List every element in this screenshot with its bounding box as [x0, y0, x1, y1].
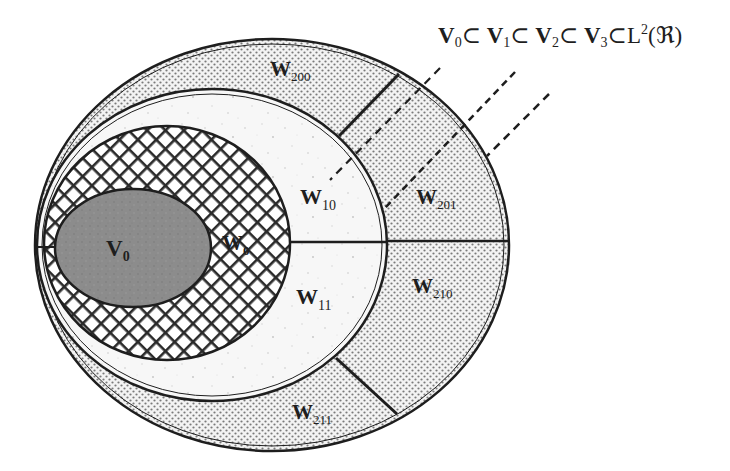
formula-v0-sub: 0: [455, 35, 462, 50]
region-v0: [55, 189, 211, 307]
formula-v3-sub: 3: [601, 35, 608, 50]
nested-spaces-formula: V0⊂ V1⊂ V2⊂ V3⊂L2(ℜ): [438, 22, 682, 51]
leader-v2: [487, 94, 549, 156]
formula-v2: V: [535, 23, 552, 48]
subset-symbol: ⊂: [462, 23, 481, 48]
subset-symbol: ⊂: [510, 23, 529, 48]
formula-v0: V: [438, 23, 455, 48]
subset-symbol: ⊂: [559, 23, 578, 48]
formula-v3: V: [584, 23, 601, 48]
wavelet-packet-diagram: V0 W0 W10 W11 W200 W201 W210 W211: [0, 0, 730, 471]
formula-v1: V: [487, 23, 504, 48]
formula-l2-sup: 2: [641, 22, 648, 37]
formula-l2: L: [627, 23, 641, 48]
subset-symbol: ⊂: [608, 23, 627, 48]
formula-v2-sub: 2: [552, 35, 559, 50]
formula-l2-arg: (ℜ): [648, 23, 682, 48]
